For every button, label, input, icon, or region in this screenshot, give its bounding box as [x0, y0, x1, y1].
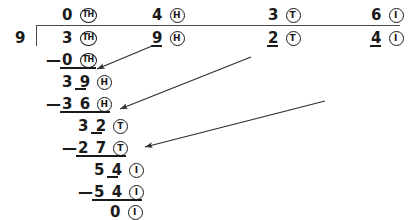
step-1-rule	[60, 67, 96, 69]
place-value-t-icon: T	[113, 119, 128, 134]
place-value-i-icon: I	[389, 31, 404, 46]
place-value-th-icon: TH	[80, 31, 97, 46]
quotient-digit-thousands: 0 TH	[62, 6, 97, 24]
place-value-th-icon: TH	[80, 53, 97, 68]
bringdown-underline-i	[370, 45, 381, 47]
bringdown-arrow-2	[120, 57, 251, 109]
step-5-rule	[76, 155, 126, 157]
step-6-value: 5 4 I	[94, 161, 144, 179]
place-value-h-icon: H	[170, 31, 185, 46]
step-6-brought-digit-underline	[107, 176, 118, 178]
quotient-digit-ones: 6 I	[371, 6, 404, 24]
step-4-digit-1: 3	[78, 117, 89, 135]
divisor: 9	[15, 29, 26, 47]
quotient-h-value: 4	[152, 6, 163, 24]
minus-sign-step-7: —	[78, 183, 93, 201]
quotient-th-value: 0	[62, 6, 73, 24]
step-4-brought-digit-underline	[91, 132, 102, 134]
step-3-rule	[60, 111, 110, 113]
place-value-t-icon: T	[113, 141, 128, 156]
bringdown-underline-h	[151, 45, 162, 47]
place-value-i-icon: I	[129, 185, 144, 200]
step-6-digit-1: 5	[94, 161, 105, 179]
step-7-rule	[92, 199, 142, 201]
place-value-i-icon: I	[128, 205, 143, 220]
step-2-digit-1: 3	[62, 73, 73, 91]
place-value-h-icon: H	[97, 75, 112, 90]
place-value-h-icon: H	[97, 97, 112, 112]
place-value-th-icon: TH	[80, 8, 97, 23]
step-2-brought-digit-underline	[75, 88, 86, 90]
quotient-digit-tens: 3 T	[268, 6, 301, 24]
bringdown-underline-t	[267, 45, 278, 47]
step-4-value: 3 2 T	[78, 117, 128, 135]
place-value-t-icon: T	[286, 31, 301, 46]
remainder-digit: 0	[110, 203, 121, 220]
dividend-digit-thousands: 3 TH	[62, 29, 97, 47]
minus-sign-step-1: —	[46, 51, 61, 69]
bringdown-arrow-3	[145, 101, 325, 147]
step-2-value: 3 9 H	[62, 73, 112, 91]
quotient-digit-hundreds: 4 H	[152, 6, 185, 24]
place-value-t-icon: T	[286, 8, 301, 23]
place-value-i-icon: I	[129, 163, 144, 178]
quotient-t-value: 3	[268, 6, 279, 24]
quotient-i-value: 6	[371, 6, 382, 24]
dividend-th-value: 3	[62, 29, 73, 47]
long-division-worksheet: 0 TH 4 H 3 T 6 I 9 3 TH 9 H 2 T 4 I — 0 …	[0, 0, 415, 220]
remainder-value: 0 I	[110, 203, 143, 220]
bringdown-arrow-1	[97, 46, 152, 69]
division-bar	[36, 25, 400, 26]
minus-sign-step-5: —	[62, 139, 77, 157]
minus-sign-step-3: —	[46, 95, 61, 113]
place-value-h-icon: H	[170, 8, 185, 23]
place-value-i-icon: I	[389, 8, 404, 23]
division-vertical-bar	[36, 25, 37, 46]
